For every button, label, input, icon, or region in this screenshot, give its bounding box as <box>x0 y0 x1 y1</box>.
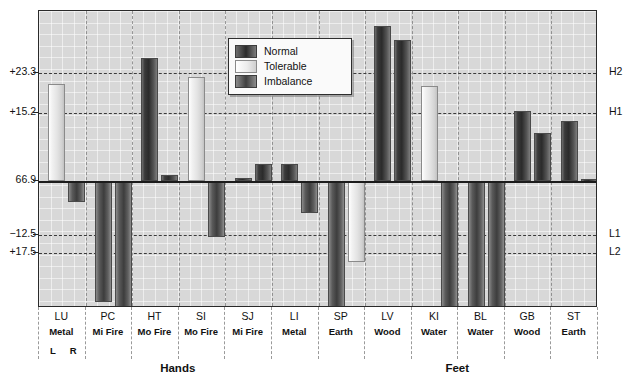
category-separator <box>225 11 226 306</box>
bar-lu-r[interactable] <box>68 181 85 202</box>
category-code: SP <box>318 310 365 322</box>
bar-lu-l[interactable] <box>48 84 65 181</box>
legend-item-label: Imbalance <box>264 76 312 87</box>
category-code: BL <box>457 310 504 322</box>
category-divider <box>85 307 86 359</box>
category-separator <box>132 11 133 306</box>
category-divider <box>224 307 225 359</box>
legend-item-label: Tolerable <box>264 61 307 72</box>
y-tick-left-4: +17.5 <box>9 245 36 257</box>
category-element: Metal <box>38 326 85 337</box>
bar-pc-l[interactable] <box>95 181 112 302</box>
bar-gb-l[interactable] <box>514 111 531 181</box>
category-code: SJ <box>224 310 271 322</box>
category-divider <box>550 307 551 359</box>
category-divider <box>38 307 39 359</box>
category-element: Mi Fire <box>85 326 132 337</box>
bar-li-r[interactable] <box>301 181 318 213</box>
bar-sp-r[interactable] <box>348 181 365 262</box>
category-divider <box>597 307 598 359</box>
category-code: HT <box>131 310 178 322</box>
y-axis-right: H2H1L1L2 <box>601 0 642 374</box>
category-li[interactable]: LIMetal <box>271 307 318 367</box>
category-code: LU <box>38 310 85 322</box>
category-element: Earth <box>318 326 365 337</box>
category-element: Mo Fire <box>131 326 178 337</box>
bar-st-l[interactable] <box>561 121 578 181</box>
category-ht[interactable]: HTMo Fire <box>131 307 178 367</box>
side-label-right: R <box>70 345 77 356</box>
bar-pc-r[interactable] <box>115 181 132 307</box>
normal-swatch-icon <box>235 45 257 58</box>
category-separator <box>551 11 552 306</box>
category-code: ST <box>550 310 597 322</box>
legend-item-imbalance[interactable]: Imbalance <box>235 74 345 89</box>
legend-item-normal[interactable]: Normal <box>235 44 345 59</box>
category-element: Mi Fire <box>224 326 271 337</box>
category-element: Metal <box>271 326 318 337</box>
tolerable-swatch-icon <box>235 60 257 73</box>
category-lu[interactable]: LUMetal <box>38 307 85 367</box>
group-label-feet: Feet <box>318 362 598 374</box>
category-pc[interactable]: PCMi Fire <box>85 307 132 367</box>
bar-ki-l[interactable] <box>421 86 438 181</box>
bar-lv-r[interactable] <box>394 40 411 181</box>
category-ki[interactable]: KIWater <box>411 307 458 367</box>
imbalance-swatch-icon <box>235 75 257 88</box>
category-element: Water <box>411 326 458 337</box>
group-label-hands: Hands <box>38 362 318 374</box>
legend-item-label: Normal <box>264 46 298 57</box>
category-divider <box>271 307 272 359</box>
side-label-left: L <box>50 345 56 356</box>
category-divider <box>131 307 132 359</box>
bar-gb-r[interactable] <box>534 133 551 181</box>
bar-sj-r[interactable] <box>255 164 272 181</box>
legend-item-tolerable[interactable]: Tolerable <box>235 59 345 74</box>
bar-ht-r[interactable] <box>161 175 178 181</box>
category-st[interactable]: STEarth <box>550 307 597 367</box>
chart-legend: NormalTolerableImbalance <box>228 38 352 95</box>
category-bl[interactable]: BLWater <box>457 307 504 367</box>
category-sp[interactable]: SPEarth <box>318 307 365 367</box>
category-lv[interactable]: LVWood <box>364 307 411 367</box>
category-code: GB <box>504 310 551 322</box>
bar-bl-l[interactable] <box>468 181 485 307</box>
bar-lv-l[interactable] <box>374 26 391 181</box>
category-separator <box>86 11 87 306</box>
category-element: Mo Fire <box>178 326 225 337</box>
category-separator <box>365 11 366 306</box>
category-code: PC <box>85 310 132 322</box>
y-tick-right-h2: H2 <box>609 65 622 77</box>
y-axis-left: +23.3+15.266.9−12.5+17.5 <box>0 0 36 374</box>
category-element: Water <box>457 326 504 337</box>
category-separator <box>505 11 506 306</box>
category-separator <box>179 11 180 306</box>
category-divider <box>457 307 458 359</box>
category-element: Wood <box>504 326 551 337</box>
bar-sp-l[interactable] <box>328 181 345 307</box>
bar-bl-r[interactable] <box>488 181 505 307</box>
category-gb[interactable]: GBWood <box>504 307 551 367</box>
bar-si-l[interactable] <box>188 77 205 181</box>
reference-line <box>39 113 596 114</box>
category-divider <box>411 307 412 359</box>
y-tick-left-2: 66.9 <box>16 173 36 185</box>
y-tick-left-0: +23.3 <box>9 65 36 77</box>
category-si[interactable]: SIMo Fire <box>178 307 225 367</box>
category-element: Earth <box>550 326 597 337</box>
category-divider <box>318 307 319 359</box>
category-divider <box>178 307 179 359</box>
category-element: Wood <box>364 326 411 337</box>
y-tick-right-l2: L2 <box>609 245 621 257</box>
y-tick-right-l1: L1 <box>609 227 621 239</box>
chart-root: +23.3+15.266.9−12.5+17.5 H2H1L1L2 Normal… <box>0 0 642 374</box>
bar-li-l[interactable] <box>281 164 298 181</box>
bar-ki-r[interactable] <box>441 181 458 307</box>
category-sj[interactable]: SJMi Fire <box>224 307 271 367</box>
x-axis-categories: LUMetalPCMi FireHTMo FireSIMo FireSJMi F… <box>38 307 597 374</box>
bar-si-r[interactable] <box>208 181 225 237</box>
bar-ht-l[interactable] <box>141 58 158 181</box>
zero-baseline <box>39 181 596 183</box>
category-code: KI <box>411 310 458 322</box>
category-code: SI <box>178 310 225 322</box>
